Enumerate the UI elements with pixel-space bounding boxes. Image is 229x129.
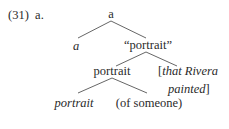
tree-node-relative-clause-line1: [that Rivera [158,64,218,78]
tree-node-portrait: portrait [94,64,131,78]
relative-clause-text-1: that Rivera [162,64,218,78]
tree-node-portrait-italic: portrait [55,96,94,110]
example-number-text: (31) [8,8,29,22]
edge-portrait-right [112,78,147,93]
relative-clause-text-2: painted [168,82,206,96]
edge-root-right [111,21,146,38]
example-sub-label: a. [35,8,44,22]
tree-node-portrait-quoted: “portrait” [124,38,172,52]
example-number: (31) a. [8,8,44,22]
tree-node-relative-clause-line2: painted] [168,82,210,96]
tree-root-node: a [108,7,114,21]
tree-node-of-someone: (of someone) [116,96,182,110]
close-bracket: ] [206,82,210,96]
tree-node-a-italic: a [73,39,79,53]
edge-portrait-left [78,78,112,93]
edge-root-left [78,21,111,38]
